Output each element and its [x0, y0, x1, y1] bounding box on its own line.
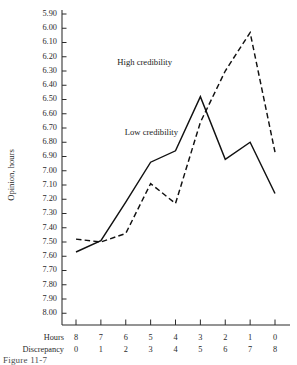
y-tick-label: 6.10	[42, 37, 57, 46]
series-line-low-credibility	[76, 97, 275, 252]
y-tick-label: 7.60	[42, 251, 57, 260]
y-tick-label: 7.70	[42, 265, 57, 274]
x-tick-label-hours: 0	[273, 333, 277, 342]
x-tick-label-discrepancy: 5	[198, 345, 202, 354]
y-tick-label: 6.50	[42, 94, 57, 103]
x-tick-label-discrepancy: 0	[74, 345, 78, 354]
x-tick-label-hours: 7	[99, 333, 103, 342]
y-axis-title: Opinion, hours	[6, 149, 16, 201]
series-label-low-credibility: Low credibility	[125, 127, 179, 137]
series-line-high-credibility	[76, 33, 275, 242]
y-tick-label: 6.00	[42, 23, 57, 32]
x-tick-label-hours: 3	[198, 333, 202, 342]
x-tick-label-hours: 4	[173, 333, 178, 342]
series-group	[76, 33, 275, 252]
x-tick-group	[76, 320, 275, 326]
y-tick-label: 7.90	[42, 294, 57, 303]
series-label-high-credibility: High credibility	[117, 57, 172, 67]
x-tick-label-hours: 2	[223, 333, 227, 342]
y-tick-label: 7.40	[42, 223, 57, 232]
y-axis: 5.906.006.106.206.306.406.506.606.706.80…	[42, 9, 66, 325]
y-tick-label-group: 5.906.006.106.206.306.406.506.606.706.80…	[42, 9, 57, 317]
figure-caption: Figure 11-7	[3, 355, 47, 365]
y-tick-label: 6.20	[42, 52, 57, 61]
x-tick-label-discrepancy: 2	[124, 345, 128, 354]
y-tick-group	[62, 14, 67, 313]
x-tick-label-discrepancy: 4	[173, 345, 178, 354]
y-tick-label: 6.70	[42, 123, 57, 132]
x-tick-label-discrepancy: 6	[223, 345, 227, 354]
y-tick-label: 7.20	[42, 194, 57, 203]
y-tick-label: 7.10	[42, 180, 57, 189]
x-tick-label-discrepancy: 7	[248, 345, 252, 354]
x-tick-label-discrepancy: 1	[99, 345, 103, 354]
x-tick-label-discrepancy: 8	[273, 345, 277, 354]
x-tick-label-hours: 6	[124, 333, 128, 342]
x-tick-label-hours: 5	[149, 333, 153, 342]
y-tick-label: 6.60	[42, 109, 57, 118]
y-tick-label: 7.30	[42, 208, 57, 217]
y-tick-label: 7.00	[42, 166, 57, 175]
x-axis	[62, 320, 290, 326]
y-tick-label: 6.40	[42, 80, 57, 89]
y-tick-label: 8.00	[42, 308, 57, 317]
y-tick-label: 6.90	[42, 151, 57, 160]
y-tick-label: 6.30	[42, 66, 57, 75]
x-axis-row-title-discrepancy: Discrepancy	[23, 345, 65, 354]
y-tick-label: 7.50	[42, 237, 57, 246]
x-tick-label-hours: 8	[74, 333, 78, 342]
x-axis-row-title-hours: Hours	[44, 333, 64, 342]
x-tick-label-hours: 1	[248, 333, 252, 342]
x-tick-label-discrepancy: 3	[149, 345, 153, 354]
y-tick-label: 5.90	[42, 9, 57, 18]
y-tick-label: 6.80	[42, 137, 57, 146]
y-tick-label: 7.80	[42, 280, 57, 289]
x-axis-row-labels: Hours876543210Discrepancy012345678	[23, 333, 278, 354]
